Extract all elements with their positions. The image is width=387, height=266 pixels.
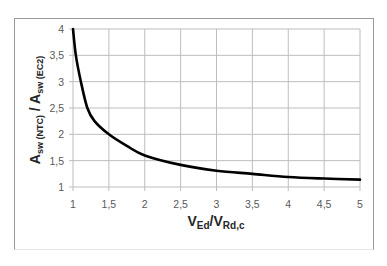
y-tick-label: 3,5 [49, 49, 64, 61]
y-tick-label: 4 [58, 23, 64, 35]
y-axis-ticks: 11,522,533,54 [49, 23, 64, 193]
x-tick-label: 2 [142, 198, 148, 210]
y-tick-label: 2 [58, 128, 64, 140]
y-tick-label: 1,5 [49, 155, 64, 167]
x-tick-label: 1 [70, 198, 76, 210]
x-axis-title: VEd/VRd,c [187, 213, 244, 231]
x-axis-ticks: 11,522,533,544,55 [70, 198, 363, 210]
x-tick-label: 1,5 [102, 198, 117, 210]
line-chart: 11,522,533,54 11,522,533,544,55 VEd/VRd,… [0, 0, 387, 266]
x-tick-label: 2,5 [173, 198, 188, 210]
y-tick-label: 1 [58, 181, 64, 193]
x-tick-label: 4,5 [317, 198, 332, 210]
x-tick-label: 3 [214, 198, 220, 210]
x-tick-label: 5 [357, 198, 363, 210]
x-tick-label: 3,5 [245, 198, 260, 210]
x-tick-label: 4 [285, 198, 291, 210]
gridlines [69, 29, 360, 191]
y-tick-label: 3 [58, 76, 64, 88]
y-tick-label: 2,5 [49, 102, 64, 114]
y-axis-title: Asw (NTC) / Asw (EC2) [27, 56, 45, 164]
